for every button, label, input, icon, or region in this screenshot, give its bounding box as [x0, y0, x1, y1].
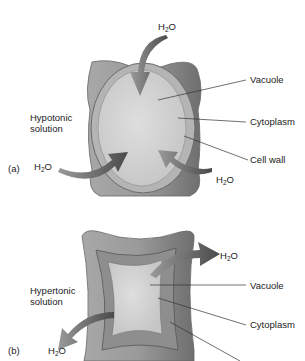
- cellwall-label-a: Cell wall: [250, 154, 285, 165]
- plasmolyzed-cell: [82, 231, 194, 361]
- vacuole-label-b: Vacuole: [250, 280, 284, 291]
- cytoplasm-label-b: Cytoplasm: [250, 319, 295, 330]
- panel-tag-a: (a): [8, 163, 20, 174]
- water-label-right-a: H2O: [216, 174, 234, 188]
- water-label-top-a: H2O: [158, 21, 176, 35]
- solution-label-b: Hypertonicsolution: [30, 285, 75, 307]
- panel-tag-b: (b): [8, 345, 20, 356]
- vacuole-label-a: Vacuole: [250, 74, 284, 85]
- cytoplasm-label-a: Cytoplasm: [250, 116, 295, 127]
- water-label-right-b: H2O: [220, 250, 238, 264]
- water-label-left-a: H2O: [34, 161, 52, 175]
- water-label-left-b: H2O: [48, 345, 66, 359]
- solution-label-a: Hypotonicsolution: [30, 112, 72, 134]
